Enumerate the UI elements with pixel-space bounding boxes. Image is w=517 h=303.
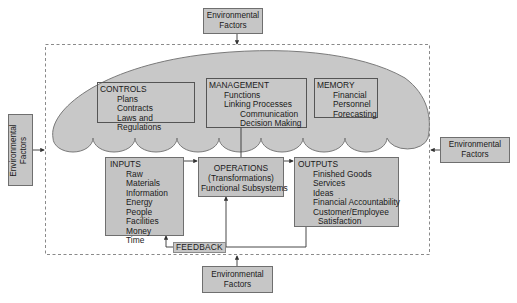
env-factors-bottom: Environmental Factors bbox=[202, 266, 273, 293]
inputs-box: INPUTS Raw Materials Information Energy … bbox=[105, 157, 184, 236]
feedback-label: FEEDBACK bbox=[173, 242, 226, 253]
memory-item: Forecasting bbox=[317, 110, 375, 120]
operations-subtitle: (Transformations) bbox=[201, 173, 281, 183]
operations-subsystems: Functional Subsystems bbox=[201, 183, 281, 193]
inputs-title: INPUTS bbox=[110, 160, 179, 170]
env-factors-top: Environmental Factors bbox=[203, 8, 263, 34]
env-left-line2: Factors bbox=[19, 115, 29, 187]
operations-box: OPERATIONS (Transformations) Functional … bbox=[198, 157, 284, 197]
inputs-item: Time bbox=[110, 236, 179, 246]
env-bottom-line2: Factors bbox=[224, 280, 251, 290]
env-factors-right: Environmental Factors bbox=[440, 137, 510, 163]
management-subitem: Decision Making bbox=[209, 119, 304, 129]
inputs-item: Raw Materials bbox=[110, 170, 179, 189]
env-factors-left: Environmental Factors bbox=[8, 114, 33, 186]
controls-item: Laws and Regulations bbox=[100, 114, 192, 133]
controls-box: CONTROLS Plans Contracts Laws and Regula… bbox=[97, 82, 195, 123]
management-box: MANAGEMENT Functions Linking Processes C… bbox=[206, 78, 307, 128]
controls-title: CONTROLS bbox=[100, 85, 192, 95]
outputs-box: OUTPUTS Finished Goods Services Ideas Fi… bbox=[294, 157, 399, 227]
env-bottom-line1: Environmental bbox=[211, 270, 263, 280]
env-top-line1: Environmental bbox=[207, 11, 259, 21]
env-right-line2: Factors bbox=[461, 150, 488, 160]
memory-box: MEMORY Financial Personnel Forecasting bbox=[314, 78, 378, 118]
inputs-item: Money bbox=[110, 227, 179, 237]
env-left-line1: Environmental bbox=[9, 115, 19, 187]
operations-title: OPERATIONS bbox=[201, 163, 281, 173]
outputs-item-continuation: Satisfaction bbox=[298, 217, 395, 227]
env-top-line2: Factors bbox=[219, 21, 246, 31]
env-right-line1: Environmental bbox=[449, 140, 501, 150]
env-left-text: Environmental Factors bbox=[9, 115, 34, 187]
